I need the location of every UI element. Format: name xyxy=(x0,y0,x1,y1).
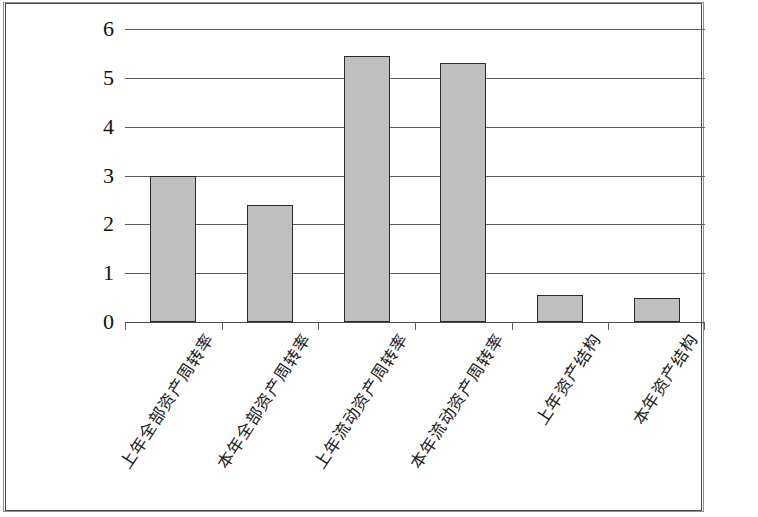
y-axis-tick-label: 5 xyxy=(103,66,114,88)
y-axis-tick-label: 0 xyxy=(103,311,114,333)
x-axis-category-labels: 上年全部资产周转率本年全部资产周转率上年流动资产周转率本年流动资产周转率上年资产… xyxy=(125,322,705,512)
x-axis-category-label: 本年流动资产周转率 xyxy=(404,328,510,473)
x-axis-category-label: 上年全部资产周转率 xyxy=(114,328,220,473)
x-axis-category-label: 上年资产结构 xyxy=(529,328,606,429)
bar xyxy=(344,56,390,322)
bar xyxy=(440,63,486,322)
y-axis-tick-label: 1 xyxy=(103,262,114,284)
bar-chart: 0123456 上年全部资产周转率本年全部资产周转率上年流动资产周转率本年流动资… xyxy=(0,0,758,517)
x-axis-category-label: 本年全部资产周转率 xyxy=(210,328,316,473)
x-axis-category-label: 本年资产结构 xyxy=(625,328,702,429)
bars-layer xyxy=(125,29,705,322)
plot-area: 0123456 xyxy=(125,29,705,322)
bar xyxy=(634,298,680,322)
bar xyxy=(537,295,583,322)
y-axis-tick-label: 2 xyxy=(103,213,114,235)
y-axis-tick-label: 4 xyxy=(103,115,114,137)
y-axis-tick-label: 6 xyxy=(103,18,114,40)
bar xyxy=(150,176,196,323)
x-axis-category-label: 上年流动资产周转率 xyxy=(307,328,413,473)
y-axis-tick-label: 3 xyxy=(103,164,114,186)
bar xyxy=(247,205,293,322)
